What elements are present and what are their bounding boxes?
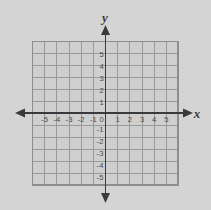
x-tick-label: 3: [140, 115, 144, 124]
x-tick-label: -2: [78, 115, 85, 124]
y-tick-label: 4: [99, 62, 103, 71]
y-axis-negative-tick-labels: -1 -2 -3 -4 -5: [97, 125, 104, 182]
x-tick-label: 2: [128, 115, 132, 124]
y-axis-label: y: [100, 10, 108, 25]
origin-tick-label: 0: [99, 115, 103, 124]
x-tick-label: 1: [116, 115, 120, 124]
x-tick-label: -3: [66, 115, 73, 124]
y-tick-label: 5: [99, 50, 103, 59]
y-axis-up-arrow-icon: [101, 25, 110, 35]
x-tick-label: -5: [41, 115, 48, 124]
y-tick-label: -2: [97, 137, 104, 146]
x-axis-left-arrow-icon: [15, 109, 25, 118]
y-tick-label: -3: [97, 149, 104, 158]
x-tick-label: 5: [164, 115, 168, 124]
y-axis-positive-tick-labels: 5 4 3 2 1: [99, 50, 103, 107]
y-tick-label: -4: [97, 161, 104, 170]
x-tick-label: -1: [90, 115, 97, 124]
x-tick-label: 4: [152, 115, 156, 124]
y-tick-label: 1: [99, 98, 103, 107]
y-tick-label: 2: [99, 86, 103, 95]
y-tick-label: -1: [97, 125, 104, 134]
x-axis-right-arrow-icon: [183, 109, 193, 118]
y-tick-label: -5: [97, 173, 104, 182]
y-tick-label: 3: [99, 74, 103, 83]
x-tick-label: -4: [53, 115, 60, 124]
x-axis-label: x: [193, 106, 201, 121]
y-axis-down-arrow-icon: [101, 193, 110, 203]
coordinate-plane-svg: x y 0 -5 -4 -3 -2 -1 1 2 3 4 5 5 4 3 2 1: [0, 0, 211, 210]
coordinate-plane-figure: x y 0 -5 -4 -3 -2 -1 1 2 3 4 5 5 4 3 2 1: [0, 0, 211, 210]
